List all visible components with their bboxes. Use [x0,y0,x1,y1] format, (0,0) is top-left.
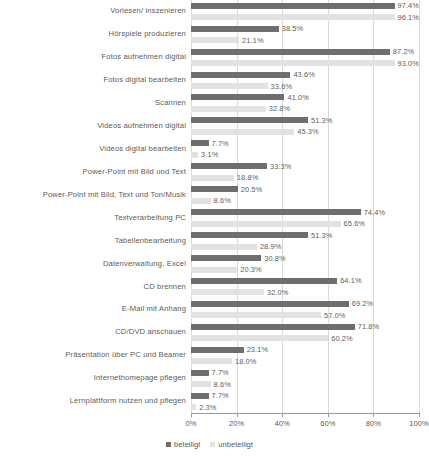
bar-unbeteiligt [191,358,232,364]
bar-unbeteiligt [191,244,257,250]
bars-cell: 97.4%96.1% [191,0,419,23]
bar-value-label: 28.9% [257,242,281,251]
bars-cell: 51.3%28.9% [191,229,419,252]
category-label: Vorlesen/ inszenieren [0,0,191,23]
chart-row: Fotos aufnehmen digital87.2%93.0% [0,46,419,69]
bar-line-beteiligt: 41.0% [191,92,419,103]
category-label: Hörspiele produzieren [0,23,191,46]
bar-value-label: 41.0% [284,93,308,102]
chart-row: Vorlesen/ inszenieren97.4%96.1% [0,0,419,23]
bar-line-beteiligt: 7.7% [191,390,419,401]
bar-line-beteiligt: 33.3% [191,161,419,172]
bar-unbeteiligt [191,221,341,227]
bar-value-label: 45.3% [294,127,318,136]
chart-row: E-Mail mit Anhang69.2%57.0% [0,298,419,321]
bar-unbeteiligt [191,129,294,135]
bar-line-beteiligt: 71.8% [191,321,419,332]
legend-swatch-icon [166,442,171,447]
bar-line-unbeteiligt: 45.3% [191,126,419,137]
bar-beteiligt [191,72,290,78]
bar-value-label: 33.6% [268,82,292,91]
bar-beteiligt [191,232,308,238]
category-label: Datenverwaltung, Excel [0,252,191,275]
bar-line-unbeteiligt: 93.0% [191,57,419,68]
chart-row: Power-Point mit Bild und Text33.3%18.8% [0,161,419,184]
bar-unbeteiligt [191,14,395,20]
bar-line-beteiligt: 23.1% [191,344,419,355]
category-label: Präsentation über PC und Beamer [0,344,191,367]
x-axis-tick-label: 60% [320,419,335,428]
bars-cell: 69.2%57.0% [191,298,419,321]
bars-cell: 43.6%33.6% [191,69,419,92]
bar-line-beteiligt: 64.1% [191,275,419,286]
bars-cell: 51.3%45.3% [191,115,419,138]
bar-value-label: 20.3% [237,265,261,274]
bars-cell: 64.1%32.0% [191,275,419,298]
chart-row: Hörspiele produzieren38.5%21.1% [0,23,419,46]
bar-unbeteiligt [191,198,211,204]
chart-row: Videos digital bearbeiten7.7%3.1% [0,138,419,161]
category-label: Videos aufnehmen digital [0,115,191,138]
bar-value-label: 18.0% [232,357,256,366]
bar-value-label: 51.3% [308,231,332,240]
bar-beteiligt [191,94,284,100]
bar-value-label: 97.4% [395,1,419,10]
x-axis-tick-label: 40% [275,419,290,428]
bar-unbeteiligt [191,83,268,89]
bar-value-label: 96.1% [395,13,419,22]
category-label: Videos digital bearbeiten [0,138,191,161]
bars-cell: 71.8%60.2% [191,321,419,344]
bar-line-unbeteiligt: 18.8% [191,172,419,183]
chart-row: CD brennen64.1%32.0% [0,275,419,298]
bar-beteiligt [191,255,261,261]
bar-line-beteiligt: 51.3% [191,229,419,240]
chart-row: Präsentation über PC und Beamer23.1%18.0… [0,344,419,367]
bars-cell: 7.7%8.6% [191,367,419,390]
bar-unbeteiligt [191,37,239,43]
bar-beteiligt [191,140,209,146]
bar-line-beteiligt: 43.6% [191,69,419,80]
bar-line-unbeteiligt: 21.1% [191,34,419,45]
category-label: Textverarbeitung PC [0,206,191,229]
chart-row: Lernplattform nutzen und pflegen7.7%2.3% [0,390,419,413]
chart-row: Power-Point mit Bild, Text und Ton/Musik… [0,184,419,207]
bar-unbeteiligt [191,152,198,158]
bar-value-label: 74.4% [361,208,385,217]
bar-beteiligt [191,209,361,215]
bars-cell: 30.8%20.3% [191,252,419,275]
x-axis-tick-label: 20% [229,419,244,428]
bar-beteiligt [191,393,209,399]
bar-value-label: 43.6% [290,70,314,79]
bar-unbeteiligt [191,106,266,112]
category-label: CD/DVD anschauen [0,321,191,344]
bar-unbeteiligt [191,312,321,318]
bar-line-beteiligt: 87.2% [191,46,419,57]
bars-cell: 20.5%8.6% [191,184,419,207]
x-axis-tick-mark [282,413,283,417]
bar-beteiligt [191,117,308,123]
bar-value-label: 93.0% [395,59,419,68]
bar-beteiligt [191,186,238,192]
bars-cell: 7.7%2.3% [191,390,419,413]
bar-line-unbeteiligt: 3.1% [191,149,419,160]
category-label: CD brennen [0,275,191,298]
bar-value-label: 51.3% [308,116,332,125]
bars-cell: 23.1%18.0% [191,344,419,367]
chart-row: Tabellenbearbeitung51.3%28.9% [0,229,419,252]
bar-line-beteiligt: 69.2% [191,298,419,309]
bar-line-beteiligt: 97.4% [191,0,419,11]
bar-value-label: 30.8% [261,254,285,263]
chart-row: Textverarbeitung PC74.4%65.6% [0,206,419,229]
bar-line-unbeteiligt: 32.8% [191,103,419,114]
x-axis-tick-mark [328,413,329,417]
category-label: E-Mail mit Anhang [0,298,191,321]
bar-line-unbeteiligt: 32.0% [191,287,419,298]
category-label: Lernplattform nutzen und pflegen [0,390,191,413]
bar-value-label: 21.1% [239,36,263,45]
bar-unbeteiligt [191,267,237,273]
bar-beteiligt [191,324,355,330]
x-axis-line [191,413,419,414]
bar-beteiligt [191,347,244,353]
category-label: Tabellenbearbeitung [0,229,191,252]
bar-value-label: 18.8% [234,173,258,182]
